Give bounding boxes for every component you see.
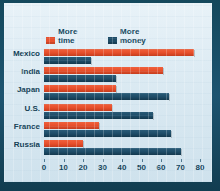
x-tick-label-60: 60 [157,163,166,172]
bar-india-more-time [44,67,163,74]
legend-item-more-time-label: time [58,36,74,45]
x-tick-label-30: 30 [98,163,107,172]
chart-screenshot: More time More money MexicoIndiaJapanU.S… [0,0,220,191]
bar-japan-more-time [44,85,116,92]
chart-plot-area: MexicoIndiaJapanU.S.FranceRussia [44,49,200,159]
x-tick-label-10: 10 [59,163,68,172]
bar-russia-more-time [44,140,83,147]
x-tick [122,159,123,162]
x-tick [83,159,84,162]
x-tick [200,159,201,162]
x-tick [103,159,104,162]
bar-france-more-money [44,130,171,137]
bar-mexico-more-money [44,57,91,64]
bar-india-more-money [44,75,116,82]
category-label-japan: Japan [17,85,40,94]
bar-japan-more-money [44,93,169,100]
category-label-russia: Russia [14,140,40,149]
chart-row: Japan [44,85,200,103]
chart-x-axis: 01020304050607080 [44,159,200,179]
bar-mexico-more-time [44,49,194,56]
legend-item-more-money-top-label: More [120,27,146,36]
chart-row: India [44,67,200,85]
x-tick [142,159,143,162]
blue-swatch-icon [108,37,117,44]
chart-outer-frame: More time More money MexicoIndiaJapanU.S… [0,0,220,191]
x-tick-label-40: 40 [118,163,127,172]
legend-item-more-time-top-label: More [58,27,78,36]
chart-panel: More time More money MexicoIndiaJapanU.S… [4,3,212,182]
legend-item-more-money: More money [108,27,146,45]
category-label-france: France [14,122,40,131]
x-tick-label-20: 20 [79,163,88,172]
legend-item-more-time: More time [46,27,78,45]
category-label-india: India [21,67,40,76]
chart-row: U.S. [44,104,200,122]
orange-swatch-icon [46,37,55,44]
chart-row: France [44,122,200,140]
bar-us-more-time [44,104,112,111]
x-tick [181,159,182,162]
category-label-mexico: Mexico [13,49,40,58]
x-tick [64,159,65,162]
bar-us-more-money [44,112,153,119]
x-tick [44,159,45,162]
bar-russia-more-money [44,148,181,155]
chart-row: Russia [44,140,200,158]
chart-row: Mexico [44,49,200,67]
x-tick-label-80: 80 [196,163,205,172]
category-label-us: U.S. [24,104,40,113]
bar-france-more-time [44,122,99,129]
x-tick-label-50: 50 [137,163,146,172]
x-tick-label-70: 70 [176,163,185,172]
x-tick [161,159,162,162]
x-tick-label-0: 0 [42,163,46,172]
legend-item-more-money-label: money [120,36,146,45]
